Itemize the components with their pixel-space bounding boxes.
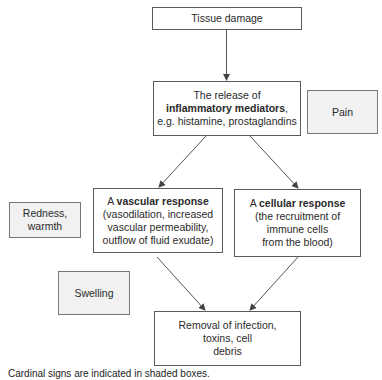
mediators-line-3: e.g. histamine, prostaglandins xyxy=(157,115,297,128)
removal-line-3: debris xyxy=(213,345,242,358)
figure-caption: Cardinal signs are indicated in shaded b… xyxy=(8,368,210,380)
cardinal-sign-redness-warmth: Redness, warmth xyxy=(9,202,81,238)
cardinal-sign-swelling: Swelling xyxy=(58,271,130,315)
node-tissue-damage-label: Tissue damage xyxy=(191,12,262,25)
cellular-bold-term: cellular response xyxy=(259,197,345,209)
arrow-mediators-to-cellular xyxy=(250,136,298,188)
cellular-line-4: from the blood) xyxy=(262,236,333,249)
node-tissue-damage: Tissue damage xyxy=(152,7,302,30)
mediators-bold-term: inflammatory mediators xyxy=(166,102,285,114)
vascular-line-4: outflow of fluid exudate) xyxy=(103,234,214,247)
removal-line-1: Removal of infection, xyxy=(178,319,276,332)
cellular-prefix: A xyxy=(250,197,259,209)
arrow-cellular-to-removal xyxy=(250,257,298,310)
arrow-mediators-to-vascular xyxy=(159,136,206,187)
cardinal-sign-pain: Pain xyxy=(307,90,378,134)
arrow-vascular-to-removal xyxy=(157,257,205,310)
vascular-bold-term: vascular response xyxy=(117,195,209,207)
vascular-line-3: vascular permeability, xyxy=(108,221,209,234)
mediators-line-2: inflammatory mediators, xyxy=(166,102,288,115)
redness-line-2: warmth xyxy=(28,220,62,233)
mediators-comma: , xyxy=(285,102,288,114)
node-removal-of-infection: Removal of infection, toxins, cell debri… xyxy=(154,311,301,366)
vascular-line-1: A vascular response xyxy=(107,195,209,208)
pain-label: Pain xyxy=(332,106,353,119)
vascular-line-2: (vasodilation, increased xyxy=(103,208,213,221)
redness-line-1: Redness, xyxy=(23,207,67,220)
swelling-label: Swelling xyxy=(74,287,113,300)
node-inflammatory-mediators: The release of inflammatory mediators, e… xyxy=(153,81,301,136)
node-cellular-response: A cellular response (the recruitment of … xyxy=(234,189,361,257)
cellular-line-1: A cellular response xyxy=(250,197,346,210)
removal-line-2: toxins, cell xyxy=(203,332,252,345)
mediators-line-1: The release of xyxy=(193,89,260,102)
vascular-prefix: A xyxy=(107,195,116,207)
cellular-line-2: (the recruitment of xyxy=(255,210,340,223)
cellular-line-3: immune cells xyxy=(267,223,328,236)
node-vascular-response: A vascular response (vasodilation, incre… xyxy=(93,188,223,253)
